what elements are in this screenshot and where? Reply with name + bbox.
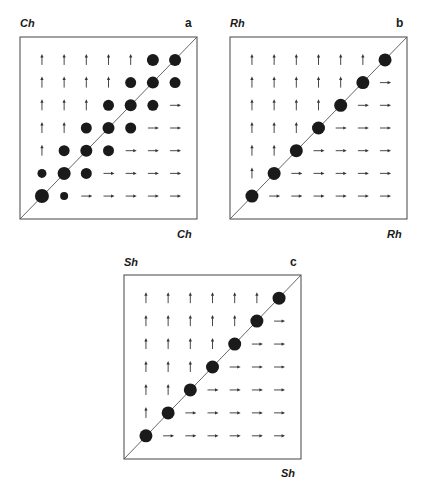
up-arrow-icon — [255, 292, 258, 303]
right-arrow-icon — [252, 388, 263, 391]
up-arrow-icon — [167, 338, 170, 349]
up-arrow-icon — [144, 407, 147, 418]
up-arrow-icon — [189, 338, 192, 349]
state-dot — [228, 338, 241, 351]
up-arrow-icon — [189, 315, 192, 326]
right-arrow-icon — [274, 342, 285, 345]
right-arrow-icon — [274, 434, 285, 437]
right-arrow-icon — [230, 434, 241, 437]
up-arrow-icon — [211, 315, 214, 326]
up-arrow-icon — [233, 315, 236, 326]
state-dot — [139, 429, 152, 442]
state-dot — [250, 315, 263, 328]
right-arrow-icon — [230, 365, 241, 368]
up-arrow-icon — [167, 384, 170, 395]
up-arrow-icon — [189, 361, 192, 372]
up-arrow-icon — [144, 361, 147, 372]
right-arrow-icon — [274, 365, 285, 368]
up-arrow-icon — [167, 292, 170, 303]
right-arrow-icon — [274, 411, 285, 414]
x-axis-label: Sh — [281, 467, 295, 479]
pairwise-grid-plot — [0, 0, 425, 490]
up-arrow-icon — [144, 384, 147, 395]
right-arrow-icon — [230, 411, 241, 414]
up-arrow-icon — [144, 292, 147, 303]
right-arrow-icon — [252, 411, 263, 414]
right-arrow-icon — [274, 320, 285, 323]
up-arrow-icon — [211, 292, 214, 303]
right-arrow-icon — [252, 365, 263, 368]
up-arrow-icon — [144, 338, 147, 349]
up-arrow-icon — [189, 292, 192, 303]
right-arrow-icon — [185, 434, 196, 437]
state-dot — [273, 292, 286, 305]
up-arrow-icon — [167, 361, 170, 372]
state-dot — [206, 361, 219, 374]
up-arrow-icon — [233, 292, 236, 303]
right-arrow-icon — [208, 411, 219, 414]
up-arrow-icon — [167, 315, 170, 326]
up-arrow-icon — [211, 338, 214, 349]
state-dot — [162, 406, 175, 419]
right-arrow-icon — [208, 434, 219, 437]
up-arrow-icon — [144, 315, 147, 326]
state-dot — [184, 383, 197, 396]
right-arrow-icon — [163, 434, 174, 437]
right-arrow-icon — [252, 434, 263, 437]
right-arrow-icon — [208, 388, 219, 391]
right-arrow-icon — [185, 411, 196, 414]
right-arrow-icon — [274, 388, 285, 391]
right-arrow-icon — [252, 342, 263, 345]
right-arrow-icon — [230, 388, 241, 391]
